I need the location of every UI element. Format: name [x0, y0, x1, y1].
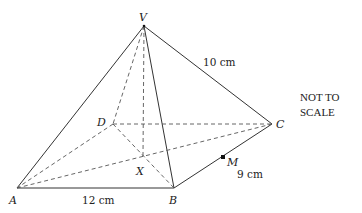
edge-VA [17, 26, 144, 188]
edge-VD [113, 26, 144, 124]
measure-MC: 9 cm [237, 168, 263, 180]
not-to-scale-line2: SCALE [300, 106, 335, 118]
label-C: C [276, 118, 285, 131]
label-B: B [168, 194, 177, 207]
label-V: V [139, 11, 148, 24]
edge-VB [144, 26, 174, 188]
not-to-scale-line1: NOT TO [300, 91, 339, 103]
point-V-marker [143, 25, 146, 28]
edge-VC [144, 26, 272, 124]
edge-VX [143, 26, 144, 156]
label-A: A [8, 194, 17, 207]
pyramid-diagram: V A B C D X M 12 cm 10 cm 9 cm NOT TO SC… [0, 0, 362, 213]
point-M-marker [221, 155, 225, 159]
measure-VC: 10 cm [203, 56, 236, 68]
label-X: X [135, 165, 145, 178]
edge-DA [17, 124, 113, 188]
label-D: D [96, 116, 106, 129]
measure-AB: 12 cm [82, 194, 115, 206]
